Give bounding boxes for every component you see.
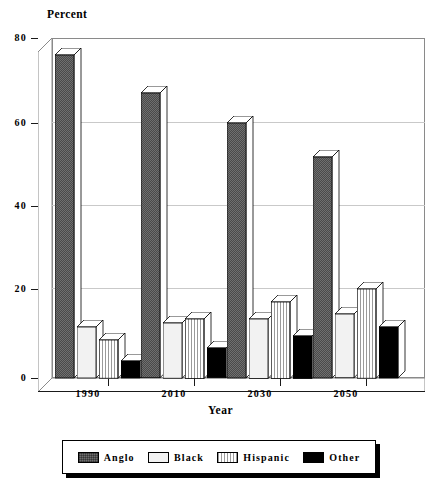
legend-label-anglo: Anglo (104, 452, 135, 463)
x-axis-label-2050: 2050 (316, 388, 376, 399)
x-axis-label-2030: 2030 (230, 388, 290, 399)
y-axis-label-40: 40 (3, 200, 27, 211)
y-axis-label-60: 60 (3, 117, 27, 128)
y-tick-0 (31, 378, 38, 379)
legend-item-black[interactable]: Black (148, 452, 204, 463)
legend-label-black: Black (174, 452, 204, 463)
y-tick-40 (31, 206, 38, 207)
x-axis-title: Year (0, 404, 441, 416)
legend-item-anglo[interactable]: Anglo (78, 452, 135, 463)
legend-swatch-anglo-icon (78, 452, 99, 463)
x-axis-label-1990: 1990 (58, 388, 118, 399)
y-tick-60 (31, 123, 38, 124)
legend-label-hispanic: Hispanic (243, 452, 290, 463)
legend-item-hispanic[interactable]: Hispanic (217, 452, 290, 463)
legend-label-other: Other (329, 452, 360, 463)
x-tick-2030 (280, 379, 281, 386)
x-tick-1990 (108, 379, 109, 386)
x-tick-2050 (366, 379, 367, 386)
chart-figure: Percent 80 60 40 20 0 1990 2010 2030 205… (0, 0, 441, 485)
bar-other-2050 (379, 320, 406, 379)
y-tick-80 (31, 38, 38, 39)
legend-swatch-other-icon (303, 452, 324, 463)
chart-legend: Anglo Black Hispanic Other (62, 440, 376, 474)
y-axis-title: Percent (47, 8, 87, 20)
plot-left-wall (38, 38, 52, 392)
x-axis-label-2010: 2010 (144, 388, 204, 399)
legend-swatch-black-icon (148, 452, 169, 463)
y-axis-label-20: 20 (3, 283, 27, 294)
y-axis-label-80: 80 (3, 32, 27, 43)
x-tick-2010 (194, 379, 195, 386)
y-tick-20 (31, 289, 38, 290)
legend-item-other[interactable]: Other (303, 452, 360, 463)
legend-swatch-hispanic-icon (217, 452, 238, 463)
y-axis-label-0: 0 (3, 372, 27, 383)
